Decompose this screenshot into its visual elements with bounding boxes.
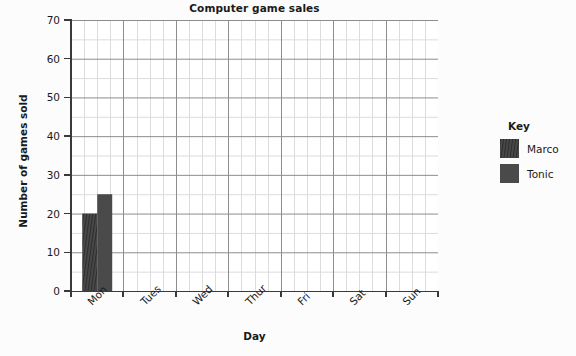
y-tick bbox=[64, 174, 70, 175]
y-tick-label: 50 bbox=[0, 91, 60, 103]
bar-marco-mon bbox=[82, 214, 97, 291]
x-tick bbox=[385, 291, 386, 297]
solid-swatch bbox=[500, 164, 519, 183]
legend-key: Key MarcoTonic bbox=[500, 120, 576, 189]
y-tick-label: 0 bbox=[0, 285, 60, 297]
y-tick bbox=[64, 252, 70, 253]
y-tick-label: 70 bbox=[0, 14, 60, 26]
legend-title: Key bbox=[508, 120, 576, 132]
y-tick bbox=[64, 19, 70, 20]
y-tick-label: 30 bbox=[0, 169, 60, 181]
x-tick bbox=[227, 291, 228, 297]
legend-label: Marco bbox=[527, 143, 559, 155]
y-tick-label: 60 bbox=[0, 53, 60, 65]
y-tick bbox=[64, 213, 70, 214]
plot-area bbox=[71, 20, 438, 291]
legend-label: Tonic bbox=[527, 168, 553, 180]
x-tick bbox=[175, 291, 176, 297]
y-tick-label: 20 bbox=[0, 208, 60, 220]
y-tick bbox=[64, 97, 70, 98]
x-tick bbox=[332, 291, 333, 297]
x-tick-label-fri: Fri bbox=[295, 290, 312, 307]
legend-entries: MarcoTonic bbox=[500, 139, 576, 183]
grid-lines bbox=[71, 20, 438, 291]
y-axis-title: Number of games sold bbox=[17, 66, 29, 256]
x-tick bbox=[280, 291, 281, 297]
x-tick bbox=[437, 291, 438, 297]
x-tick bbox=[70, 291, 71, 297]
bar-tonic-mon bbox=[97, 194, 112, 291]
chart-title: Computer game sales bbox=[71, 2, 438, 14]
legend-item-marco: Marco bbox=[500, 139, 576, 158]
hatched-swatch bbox=[500, 139, 519, 158]
y-tick-label: 40 bbox=[0, 130, 60, 142]
x-tick bbox=[122, 291, 123, 297]
y-tick-label: 10 bbox=[0, 246, 60, 258]
x-axis-title: Day bbox=[71, 330, 438, 342]
y-tick bbox=[64, 58, 70, 59]
y-axis-line bbox=[70, 19, 72, 292]
y-tick bbox=[64, 135, 70, 136]
y-tick bbox=[64, 290, 70, 291]
legend-item-tonic: Tonic bbox=[500, 164, 576, 183]
chart-screenshot: Computer game sales 010203040506070 MonT… bbox=[0, 0, 576, 356]
